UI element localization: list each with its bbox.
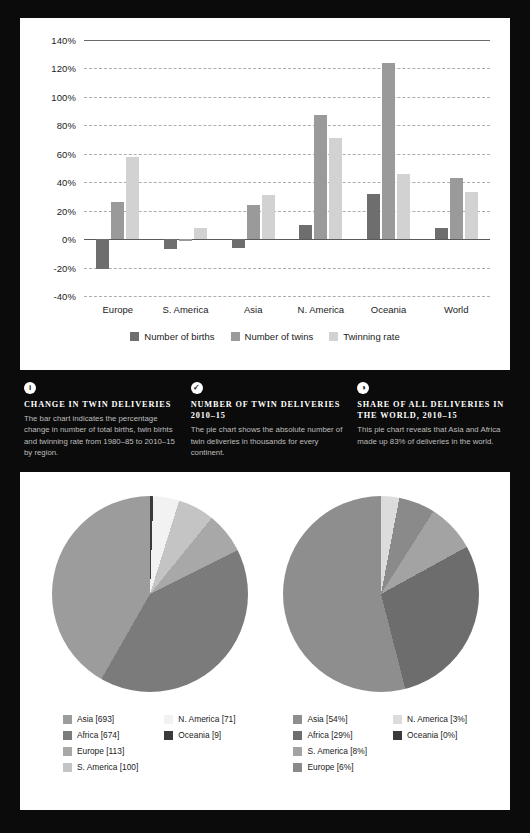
legend-item[interactable]: S. America [8%] — [293, 746, 367, 756]
x-axis-tick: N. America — [287, 304, 355, 315]
legend-swatch — [393, 731, 402, 740]
legend-item[interactable]: N. America [3%] — [393, 714, 467, 724]
legend-swatch — [293, 763, 302, 772]
legend-item[interactable]: Twinning rate — [329, 331, 400, 342]
x-axis-tick: Oceania — [355, 304, 423, 315]
bar-group — [355, 40, 423, 296]
legend-label: S. America [100] — [77, 762, 138, 772]
legend-label: S. America [8%] — [307, 746, 367, 756]
legend-item[interactable]: Africa [29%] — [293, 730, 367, 740]
caption-strip: iChange in twin deliveriesThe bar chart … — [20, 370, 510, 472]
bar — [232, 239, 245, 248]
info-icon: i — [24, 382, 36, 394]
legend-label: Europe [113] — [77, 746, 124, 756]
pie-legends-row: Asia [693]Africa [674]Europe [113]S. Ame… — [34, 714, 496, 772]
y-axis-tick: 80% — [57, 120, 76, 131]
caption-title: Share of all deliveries in the world, 20… — [357, 399, 510, 421]
legend-swatch — [130, 332, 139, 341]
caption-block: ◑Share of all deliveries in the world, 2… — [357, 382, 510, 458]
legend-label: N. America [3%] — [407, 714, 467, 724]
legend-item[interactable]: Oceania [9] — [164, 730, 235, 740]
bar — [126, 157, 139, 239]
gridline — [84, 296, 490, 297]
y-axis-tick: 60% — [57, 148, 76, 159]
legend-swatch — [63, 763, 72, 772]
legend-label: Africa [29%] — [307, 730, 352, 740]
legend-label: Asia [693] — [77, 714, 114, 724]
bar — [329, 138, 342, 239]
legend-label: Oceania [0%] — [407, 730, 457, 740]
caption-title: Number of twin deliveries 2010–15 — [191, 399, 344, 421]
bar-group — [84, 40, 152, 296]
bar-group — [152, 40, 220, 296]
caption-body: The bar chart indicates the percentage c… — [24, 413, 177, 458]
bar — [194, 228, 207, 239]
pie-charts-row — [34, 488, 496, 700]
bar-chart-legend: Number of birthsNumber of twinsTwinning … — [34, 331, 496, 342]
legend-swatch — [164, 715, 173, 724]
pie-legend-world-share: Asia [54%]Africa [29%]S. America [8%]Eur… — [293, 714, 467, 772]
bar — [382, 63, 395, 239]
legend-swatch — [231, 332, 240, 341]
legend-item[interactable]: Number of births — [130, 331, 214, 342]
legend-item[interactable]: Asia [54%] — [293, 714, 367, 724]
x-axis-tick: World — [422, 304, 490, 315]
bar — [179, 239, 192, 240]
legend-column: N. America [3%]Oceania [0%] — [393, 714, 467, 772]
caption-body: The pie chart shows the absolute number … — [191, 424, 344, 458]
legend-item[interactable]: Number of twins — [231, 331, 314, 342]
check-icon: ✓ — [191, 382, 203, 394]
legend-column: Asia [693]Africa [674]Europe [113]S. Ame… — [63, 714, 138, 772]
infographic-page: 140%120%100%80%60%40%20%0%-20%-40% Europ… — [0, 0, 530, 833]
legend-item[interactable]: Europe [113] — [63, 746, 138, 756]
legend-item[interactable]: N. America [71] — [164, 714, 235, 724]
bar-chart-panel: 140%120%100%80%60%40%20%0%-20%-40% Europ… — [20, 18, 510, 370]
bar-chart-plot-area: 140%120%100%80%60%40%20%0%-20%-40% — [84, 40, 490, 296]
x-axis-tick: S. America — [152, 304, 220, 315]
y-axis-tick: 120% — [51, 63, 76, 74]
legend-label: Number of twins — [245, 331, 314, 342]
legend-swatch — [164, 731, 173, 740]
legend-label: N. America [71] — [178, 714, 235, 724]
y-axis-tick: -40% — [53, 291, 76, 302]
legend-item[interactable]: Africa [674] — [63, 730, 138, 740]
legend-item[interactable]: Asia [693] — [63, 714, 138, 724]
legend-swatch — [63, 731, 72, 740]
bar — [299, 225, 312, 239]
bar — [314, 115, 327, 239]
legend-swatch — [393, 715, 402, 724]
legend-item[interactable]: Oceania [0%] — [393, 730, 467, 740]
legend-item[interactable]: S. America [100] — [63, 762, 138, 772]
legend-column: N. America [71]Oceania [9] — [164, 714, 235, 772]
caption-body: This pie chart reveals that Asia and Afr… — [357, 424, 510, 447]
bar-groups — [84, 40, 490, 296]
y-axis-tick: 100% — [51, 91, 76, 102]
pie-chart-world-share — [283, 496, 479, 692]
bar — [435, 228, 448, 239]
x-axis-labels: EuropeS. AmericaAsiaN. AmericaOceaniaWor… — [84, 304, 490, 315]
legend-swatch — [293, 747, 302, 756]
caption-block: ✓Number of twin deliveries 2010–15The pi… — [191, 382, 344, 458]
legend-label: Asia [54%] — [307, 714, 347, 724]
pie-chart-twin-deliveries — [52, 496, 248, 692]
bar — [96, 239, 109, 269]
bar-group — [422, 40, 490, 296]
bar — [262, 195, 275, 239]
y-axis-tick: 140% — [51, 35, 76, 46]
bar — [111, 202, 124, 239]
bar — [465, 192, 478, 239]
legend-label: Europe [6%] — [307, 762, 353, 772]
bar-group — [219, 40, 287, 296]
caption-block: iChange in twin deliveriesThe bar chart … — [24, 382, 177, 458]
legend-column: Asia [54%]Africa [29%]S. America [8%]Eur… — [293, 714, 367, 772]
legend-swatch — [293, 715, 302, 724]
y-axis-tick: 0% — [62, 234, 76, 245]
legend-item[interactable]: Europe [6%] — [293, 762, 367, 772]
y-axis-tick: -20% — [53, 262, 76, 273]
globe-icon: ◑ — [357, 382, 369, 394]
bar — [247, 205, 260, 239]
y-axis-labels: 140%120%100%80%60%40%20%0%-20%-40% — [34, 40, 80, 296]
legend-label: Oceania [9] — [178, 730, 221, 740]
y-axis-tick: 20% — [57, 205, 76, 216]
legend-swatch — [63, 715, 72, 724]
